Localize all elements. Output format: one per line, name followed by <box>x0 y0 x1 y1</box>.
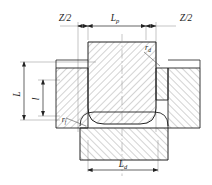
drawing-canvas: Z/2 Lp Z/2 Ld L l rd rf <box>0 0 212 185</box>
label-die-length: Ld <box>118 159 128 170</box>
die-right-section <box>168 68 200 128</box>
technical-drawing-svg: Z/2 Lp Z/2 Ld L l rd rf <box>0 0 212 185</box>
die-right-shoulder <box>156 68 168 100</box>
label-clearance-right: Z/2 <box>180 13 193 23</box>
label-clearance-left: Z/2 <box>59 13 72 23</box>
die-block-right <box>156 68 200 128</box>
label-vertical-major: L <box>12 91 22 97</box>
label-vertical-minor: l <box>31 97 41 100</box>
label-punch-length: Lp <box>110 13 120 24</box>
die-lower-section <box>80 128 168 160</box>
